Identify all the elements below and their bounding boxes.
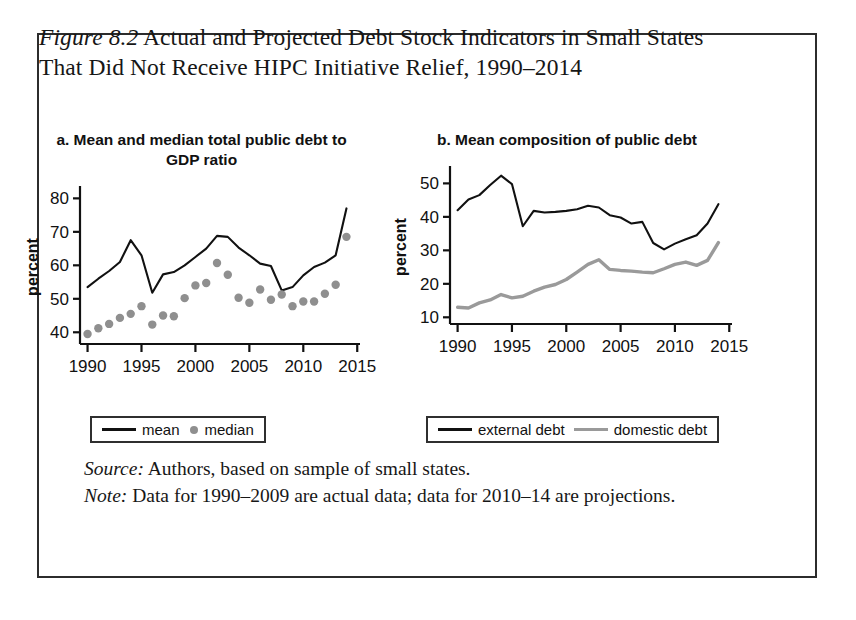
- svg-text:60: 60: [50, 256, 69, 275]
- legend-label-mean: mean: [142, 421, 180, 438]
- svg-text:40: 40: [420, 208, 439, 227]
- figure-label: Figure 8.2: [39, 24, 138, 50]
- legend-item-domestic-debt: domestic debt: [574, 421, 707, 438]
- chart-panel-a: a. Mean and median total public debt to …: [24, 130, 379, 386]
- chart-panel-b: b. Mean composition of public debt 10203…: [382, 130, 752, 366]
- line-swatch-icon: [438, 428, 472, 431]
- note-text: Data for 1990–2009 are actual data; data…: [127, 485, 675, 506]
- legend-label-median: median: [205, 421, 254, 438]
- source-lead: Source:: [84, 458, 144, 479]
- legend-label-external-debt: external debt: [478, 421, 565, 438]
- svg-text:80: 80: [50, 189, 69, 208]
- svg-text:percent: percent: [392, 217, 409, 275]
- panel-a-svg: 4050607080199019952000200520102015percen…: [24, 176, 379, 386]
- svg-text:1990: 1990: [69, 357, 107, 376]
- figure-note-line: Note: Data for 1990–2009 are actual data…: [62, 482, 722, 509]
- svg-text:1995: 1995: [123, 357, 161, 376]
- svg-text:2000: 2000: [547, 337, 585, 356]
- panel-b-legend: external debt domestic debt: [426, 416, 719, 443]
- source-text: Authors, based on sample of small states…: [144, 458, 471, 479]
- legend-item-mean: mean: [102, 421, 180, 438]
- dot-swatch-icon: [190, 426, 198, 434]
- note-lead: Note:: [84, 485, 127, 506]
- svg-text:2010: 2010: [284, 357, 322, 376]
- svg-text:50: 50: [50, 290, 69, 309]
- svg-text:20: 20: [420, 275, 439, 294]
- figure-caption-text: Actual and Projected Debt Stock Indicato…: [39, 24, 704, 80]
- legend-label-domestic-debt: domestic debt: [614, 421, 707, 438]
- svg-text:2010: 2010: [656, 337, 694, 356]
- svg-text:2015: 2015: [710, 337, 748, 356]
- panel-a-plot: 4050607080199019952000200520102015percen…: [24, 176, 379, 386]
- panel-b-plot: 1020304050199019952000200520102015percen…: [382, 156, 752, 366]
- svg-text:2005: 2005: [230, 357, 268, 376]
- svg-text:percent: percent: [24, 237, 41, 295]
- svg-text:2000: 2000: [177, 357, 215, 376]
- panel-a-title: a. Mean and median total public debt to …: [24, 130, 379, 170]
- legend-item-median: median: [189, 421, 254, 438]
- svg-text:2015: 2015: [338, 357, 376, 376]
- svg-text:1990: 1990: [439, 337, 477, 356]
- legend-item-external-debt: external debt: [438, 421, 565, 438]
- panel-b-svg: 1020304050199019952000200520102015percen…: [382, 156, 752, 366]
- line-swatch-gray-icon: [574, 428, 608, 432]
- svg-text:2005: 2005: [602, 337, 640, 356]
- figure-caption: Figure 8.2 Actual and Projected Debt Sto…: [39, 22, 739, 82]
- svg-text:70: 70: [50, 223, 69, 242]
- svg-text:50: 50: [420, 174, 439, 193]
- panel-b-title: b. Mean composition of public debt: [382, 130, 752, 150]
- panel-a-legend: mean median: [90, 416, 266, 443]
- svg-text:30: 30: [420, 241, 439, 260]
- figure-source-line: Source: Authors, based on sample of smal…: [62, 455, 722, 482]
- svg-text:1995: 1995: [493, 337, 531, 356]
- svg-text:10: 10: [420, 308, 439, 327]
- svg-text:40: 40: [50, 323, 69, 342]
- figure-notes: Source: Authors, based on sample of smal…: [62, 455, 722, 509]
- line-swatch-icon: [102, 428, 136, 431]
